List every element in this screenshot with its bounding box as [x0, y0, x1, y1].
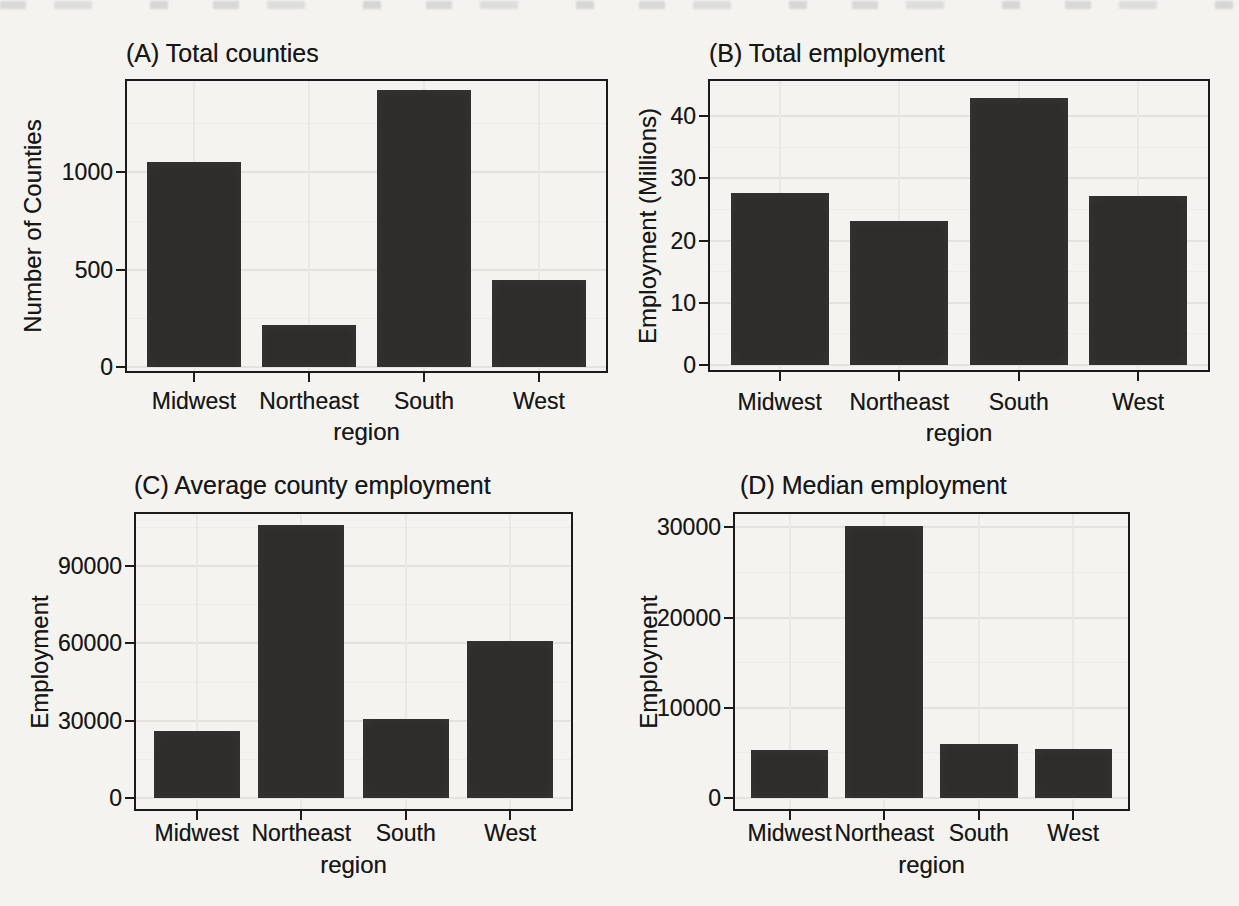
bar-south [940, 744, 1018, 798]
x-tick-mark [1072, 811, 1074, 820]
panel-title: (D) Median employment [740, 471, 1007, 500]
y-tick-mark [724, 797, 733, 799]
y-tick-mark [724, 617, 733, 619]
figure-employment-by-region: (A) Total counties05001000MidwestNorthea… [0, 0, 1239, 906]
y-tick-label: 30000 [631, 515, 721, 539]
x-tick-mark [883, 811, 885, 820]
gridline-minor [733, 572, 1130, 573]
y-tick-mark [724, 526, 733, 528]
y-tick-mark [724, 707, 733, 709]
gridline-major [733, 617, 1130, 619]
y-tick-label: 0 [631, 786, 721, 810]
panel-median-employment: (D) Median employment0100002000030000Mid… [0, 0, 1239, 906]
gridline-minor [733, 662, 1130, 663]
x-axis-title: region [898, 851, 965, 879]
gridline-major [733, 526, 1130, 528]
gridline-major [733, 707, 1130, 709]
bar-west [1035, 749, 1113, 798]
plot-area [733, 512, 1130, 811]
x-tick-mark [789, 811, 791, 820]
x-tick-mark [978, 811, 980, 820]
x-tick-label: West [998, 821, 1148, 845]
bar-midwest [751, 750, 829, 798]
bar-northeast [845, 526, 923, 798]
y-axis-title: Employment [635, 595, 663, 728]
